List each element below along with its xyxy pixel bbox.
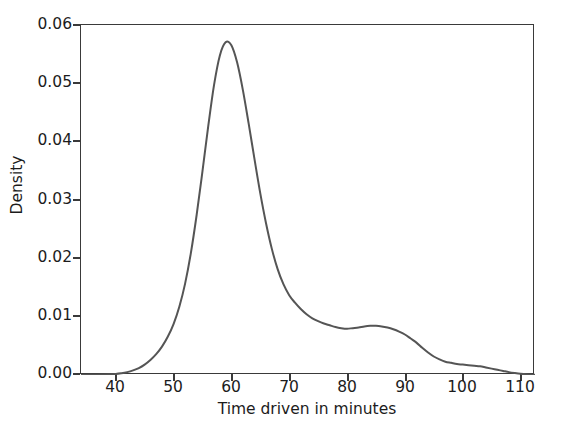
y-axis-label: Density xyxy=(8,105,26,265)
density-curve-svg xyxy=(81,25,535,375)
x-tick-label: 70 xyxy=(259,380,319,396)
y-tick-label: 0.01 xyxy=(12,308,72,324)
density-plot-figure: 0.00 0.01 0.02 0.03 0.04 0.05 0.06 40 50… xyxy=(0,0,561,430)
x-tick-label: 60 xyxy=(201,380,261,396)
y-tick-label: 0.00 xyxy=(12,366,72,382)
x-tick-label: 100 xyxy=(432,380,492,396)
y-tick-label: 0.05 xyxy=(12,75,72,91)
x-tick-label: 50 xyxy=(143,380,203,396)
x-tick-label: 90 xyxy=(375,380,435,396)
y-tick-label: 0.06 xyxy=(12,17,72,33)
y-tick-mark xyxy=(73,373,80,375)
y-tick-mark xyxy=(73,24,80,26)
plot-area xyxy=(80,24,534,374)
y-tick-mark xyxy=(73,199,80,201)
x-tick-label: 110 xyxy=(490,380,550,396)
y-tick-mark xyxy=(73,315,80,317)
x-axis-label: Time driven in minutes xyxy=(80,400,534,418)
y-tick-mark xyxy=(73,257,80,259)
y-tick-mark xyxy=(73,140,80,142)
y-tick-mark xyxy=(73,82,80,84)
x-tick-label: 40 xyxy=(85,380,145,396)
x-tick-label: 80 xyxy=(317,380,377,396)
density-curve-path xyxy=(81,42,535,375)
